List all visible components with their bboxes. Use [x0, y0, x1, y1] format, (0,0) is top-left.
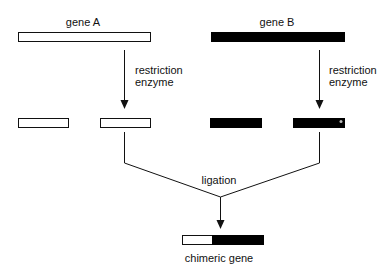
chimeric-gene-a-part — [183, 236, 213, 245]
gene-b-fragment-2 — [293, 118, 345, 128]
ligation-line-b — [221, 132, 320, 197]
enzyme-a-label-line1: restriction — [135, 64, 183, 76]
chimeric-gene-b-part — [212, 235, 264, 245]
fragment-end-marker-icon — [340, 120, 343, 123]
ligation-line-a — [125, 132, 221, 197]
gene-b-fragment-1 — [210, 118, 262, 128]
ligation-label: ligation — [202, 174, 237, 186]
gene-a-bar — [19, 33, 151, 42]
enzyme-a-label-line2: enzyme — [135, 76, 174, 88]
gene-b-bar — [211, 32, 345, 42]
gene-a-label: gene A — [66, 16, 100, 28]
gene-b-label: gene B — [260, 16, 295, 28]
arrowhead-a-icon — [121, 100, 129, 109]
gene-a-fragment-1 — [19, 119, 69, 128]
chimeric-gene-label: chimeric gene — [185, 252, 253, 264]
diagram-canvas — [0, 0, 391, 277]
enzyme-b-label-line2: enzyme — [329, 76, 368, 88]
enzyme-b-label-line1: restriction — [329, 64, 377, 76]
arrowhead-ligation-icon — [217, 220, 225, 229]
arrowhead-b-icon — [316, 100, 324, 109]
gene-a-fragment-2 — [101, 119, 151, 128]
